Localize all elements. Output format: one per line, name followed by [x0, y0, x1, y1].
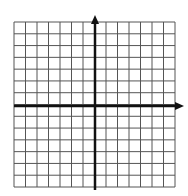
y-axis-arrow-icon: [91, 15, 99, 24]
coordinate-plane: [0, 0, 188, 196]
x-axis-arrow-icon: [175, 102, 184, 110]
